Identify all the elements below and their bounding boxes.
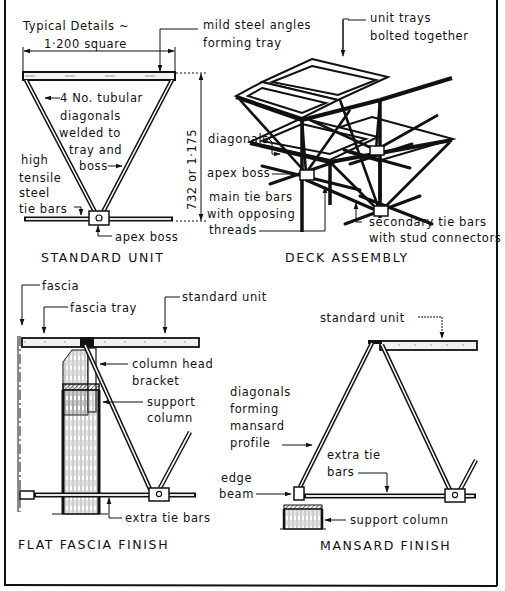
label-steel: steel — [19, 186, 50, 200]
label-high: high — [21, 153, 48, 167]
label-diagonals-line4: tray and — [69, 143, 122, 157]
label-fascia-tray: fascia tray — [70, 301, 137, 315]
label-extra-tie-bars: extra tie bars — [125, 511, 211, 525]
label-fascia: fascia — [42, 279, 79, 293]
label-mansard-diagonals: diagonals — [230, 385, 291, 399]
label-stud-connectors: with stud connectors — [369, 231, 501, 245]
label-support: support — [147, 395, 195, 409]
title-typical-details: Typical Details ~ — [22, 19, 129, 33]
label-beam: beam — [219, 487, 254, 501]
mansard-drawing: standard unit diagonals forming mansard … — [219, 311, 477, 553]
label-with-opposing: with opposing — [207, 207, 295, 221]
fascia-tray-beam — [22, 338, 199, 347]
dimension-width-label: 1·200 square — [44, 37, 127, 51]
label-forming: forming — [230, 402, 279, 416]
label-mansard-extra-tie: extra tie — [327, 448, 381, 462]
label-deck-apex-boss: apex boss — [207, 166, 270, 180]
label-mansard: mansard — [230, 419, 285, 433]
label-secondary-tie-bars: secondary tie bars — [369, 215, 487, 229]
label-mild-steel-angles: mild steel angles — [203, 18, 311, 32]
label-deck-diagonals: diagonals — [208, 132, 269, 146]
label-apex-boss: apex boss — [115, 230, 178, 244]
label-diagonals-line2: diagonals — [60, 109, 121, 123]
label-column-head: column head — [132, 357, 213, 371]
caption-flat-fascia: FLAT FASCIA FINISH — [18, 537, 169, 552]
caption-deck-assembly: DECK ASSEMBLY — [285, 250, 409, 265]
label-main-tie-bars: main tie bars — [209, 190, 293, 204]
label-profile: profile — [230, 436, 271, 450]
label-edge: edge — [221, 471, 252, 485]
label-diagonals-line3: welded to — [59, 126, 121, 140]
label-standard-unit-flat: standard unit — [182, 290, 267, 304]
label-mansard-bars: bars — [327, 465, 354, 479]
label-unit-trays: unit trays — [370, 11, 431, 25]
caption-standard-unit: STANDARD UNIT — [41, 250, 164, 265]
label-threads: threads — [209, 223, 257, 237]
label-bracket: bracket — [132, 374, 179, 388]
label-tubular-diagonals: 4 No. tubular — [60, 91, 143, 105]
edge-beam — [294, 487, 304, 500]
label-mansard-support-column: support column — [350, 513, 449, 527]
label-tie-bars: tie bars — [19, 202, 67, 216]
label-diagonals-line5: boss — [79, 159, 108, 173]
construction-detail-figure: Typical Details ~ 1·200 square mild stee… — [0, 0, 505, 591]
label-bolted-together: bolted together — [370, 29, 469, 43]
label-height-dimension: 732 or 1·175 — [185, 129, 199, 210]
label-forming-tray: forming tray — [203, 36, 282, 50]
label-column: column — [147, 411, 193, 425]
label-standard-unit-mansard: standard unit — [320, 311, 405, 325]
caption-mansard-finish: MANSARD FINISH — [320, 538, 451, 553]
label-tensile: tensile — [19, 171, 62, 185]
